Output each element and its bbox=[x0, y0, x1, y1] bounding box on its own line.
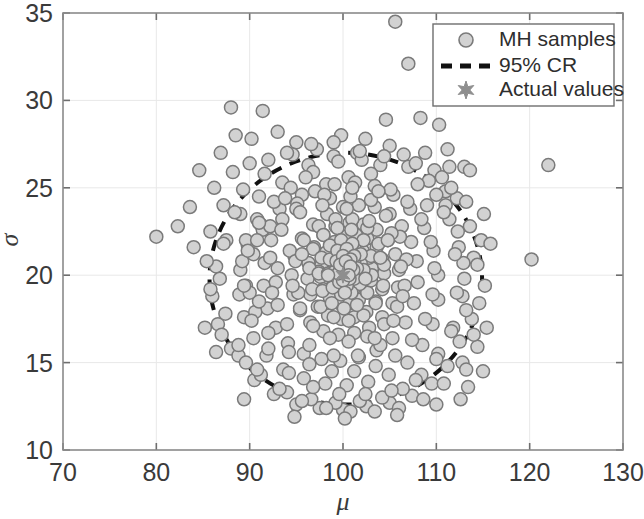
sample-point bbox=[449, 248, 462, 261]
sample-point bbox=[351, 349, 364, 362]
sample-point bbox=[379, 209, 392, 222]
sample-point bbox=[331, 222, 344, 235]
sample-point bbox=[183, 201, 196, 214]
sample-point bbox=[208, 181, 221, 194]
sample-point bbox=[303, 339, 316, 352]
sample-point bbox=[372, 185, 385, 198]
sample-point bbox=[305, 138, 318, 151]
sample-point bbox=[477, 208, 490, 221]
sample-point bbox=[264, 251, 277, 264]
sample-point bbox=[315, 353, 328, 366]
sample-point bbox=[353, 145, 366, 158]
sample-point bbox=[237, 183, 250, 196]
sample-point bbox=[262, 153, 275, 166]
x-axis-title: μ bbox=[335, 487, 349, 516]
sample-point bbox=[193, 164, 206, 177]
sample-point bbox=[288, 410, 301, 423]
sample-point bbox=[299, 171, 312, 184]
sample-point bbox=[303, 358, 316, 371]
sample-point bbox=[342, 335, 355, 348]
sample-point bbox=[198, 321, 211, 334]
sample-point bbox=[253, 216, 266, 229]
sample-point bbox=[247, 332, 260, 345]
sample-point bbox=[419, 146, 432, 159]
sample-point bbox=[450, 286, 463, 299]
sample-point bbox=[359, 272, 372, 285]
sample-point bbox=[478, 279, 491, 292]
legend-label: 95% CR bbox=[499, 53, 577, 76]
x-tick-label: 70 bbox=[49, 458, 77, 486]
sample-point bbox=[542, 159, 555, 172]
sample-point bbox=[385, 384, 398, 397]
sample-point bbox=[253, 190, 266, 203]
sample-point bbox=[391, 409, 404, 422]
sample-point bbox=[200, 255, 213, 268]
sample-point bbox=[295, 248, 308, 261]
sample-point bbox=[275, 223, 288, 236]
sample-point bbox=[471, 340, 484, 353]
sample-point bbox=[451, 225, 464, 238]
sample-point bbox=[359, 132, 372, 145]
sample-point bbox=[307, 319, 320, 332]
sample-point bbox=[428, 262, 441, 275]
sample-point bbox=[290, 136, 303, 149]
sample-point bbox=[327, 349, 340, 362]
sample-point bbox=[460, 363, 473, 376]
sample-point bbox=[430, 398, 443, 411]
sample-point bbox=[171, 220, 184, 233]
sample-point bbox=[362, 375, 375, 388]
sample-point bbox=[286, 279, 299, 292]
sample-point bbox=[467, 328, 480, 341]
sample-point bbox=[374, 251, 387, 264]
sample-point bbox=[245, 132, 258, 145]
sample-point bbox=[369, 360, 382, 373]
sample-point bbox=[345, 223, 358, 236]
sample-point bbox=[294, 206, 307, 219]
sample-point bbox=[430, 353, 443, 366]
sample-point bbox=[266, 286, 279, 299]
sample-point bbox=[214, 146, 227, 159]
sample-point bbox=[282, 367, 295, 380]
plot-legend: MH samples95% CRActual values bbox=[433, 24, 624, 106]
sample-point bbox=[430, 188, 443, 201]
sample-point bbox=[228, 206, 241, 219]
sample-point bbox=[333, 388, 346, 401]
sample-point bbox=[460, 304, 473, 317]
sample-point bbox=[368, 332, 381, 345]
sample-point bbox=[322, 269, 335, 282]
sample-point bbox=[462, 381, 475, 394]
y-tick-label: 30 bbox=[25, 86, 53, 114]
sample-point bbox=[219, 307, 232, 320]
sample-point bbox=[262, 342, 275, 355]
sample-point bbox=[210, 346, 223, 359]
sample-point bbox=[471, 258, 484, 271]
sample-point bbox=[437, 377, 450, 390]
sample-point bbox=[316, 199, 329, 212]
sample-point bbox=[389, 349, 402, 362]
x-tick-label: 130 bbox=[602, 458, 644, 486]
sample-point bbox=[396, 290, 409, 303]
figure-container: 708090100110120130 101520253035 μ σ MH s… bbox=[0, 0, 644, 519]
sample-point bbox=[394, 260, 407, 273]
sample-point bbox=[473, 297, 486, 310]
sample-point bbox=[346, 181, 359, 194]
sample-point bbox=[399, 316, 412, 329]
sample-point bbox=[238, 393, 251, 406]
legend-circle-icon bbox=[459, 33, 473, 47]
sample-point bbox=[332, 155, 345, 168]
sample-point bbox=[387, 314, 400, 327]
sample-point bbox=[406, 333, 419, 346]
sample-point bbox=[238, 279, 251, 292]
sample-point bbox=[397, 148, 410, 161]
sample-point bbox=[327, 136, 340, 149]
sample-point bbox=[282, 346, 295, 359]
sample-point bbox=[271, 125, 284, 138]
sample-point bbox=[426, 288, 439, 301]
sample-point bbox=[294, 302, 307, 315]
sample-point bbox=[337, 302, 350, 315]
sample-point bbox=[454, 393, 467, 406]
sample-point bbox=[402, 57, 415, 70]
sample-point bbox=[320, 402, 333, 415]
sample-point bbox=[245, 314, 258, 327]
sample-point bbox=[225, 101, 238, 114]
